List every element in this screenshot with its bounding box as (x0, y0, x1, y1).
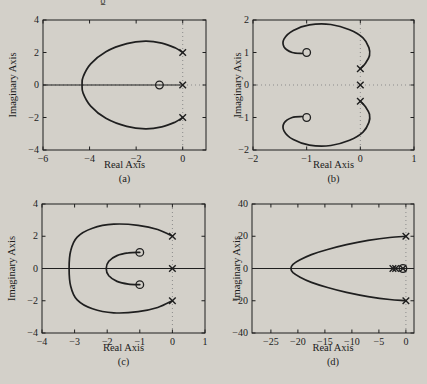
subplot-b-root-locus: −2−101−2−1012Real AxisImaginary Axis(b) (0, 0, 427, 384)
subplot-caption: (a) (119, 173, 131, 185)
x-tick-label: −1 (301, 153, 312, 164)
x-tick-label: −4 (37, 336, 48, 347)
x-tick-label: −10 (344, 336, 360, 347)
zero-marker (136, 281, 144, 289)
axes-box (252, 204, 414, 333)
x-axis-label: Real Axis (104, 159, 145, 170)
x-tick-label: −20 (290, 336, 306, 347)
zero-marker (399, 265, 407, 273)
y-tick-label: 1 (244, 47, 249, 58)
pole-marker (179, 49, 186, 56)
locus-branch (283, 24, 370, 69)
y-tick-label: −4 (28, 144, 39, 155)
x-tick-label: −4 (84, 153, 95, 164)
axes-box (43, 20, 206, 150)
x-tick-label: −15 (317, 336, 333, 347)
pole-marker (390, 265, 397, 272)
page-text-remnant-glyph: g (100, 0, 108, 5)
y-tick-label: 20 (238, 230, 248, 241)
y-axis-label: Imaginary Axis (7, 52, 18, 117)
y-tick-label: 0 (33, 263, 38, 274)
y-tick-label: 2 (33, 230, 38, 241)
pole-marker (179, 114, 186, 121)
y-tick-label: −20 (232, 295, 248, 306)
pole-marker (357, 82, 364, 89)
y-tick-label: −4 (27, 327, 38, 338)
x-tick-label: −2 (102, 336, 113, 347)
x-tick-label: 0 (170, 336, 175, 347)
y-axis-label: Imaginary Axis (232, 52, 243, 117)
zero-marker (156, 81, 164, 89)
locus-branch (106, 252, 140, 284)
x-tick-label: 0 (403, 336, 408, 347)
subplot-caption: (c) (118, 356, 130, 368)
y-tick-label: −2 (27, 295, 38, 306)
pole-marker (403, 233, 410, 240)
x-tick-label: −3 (69, 336, 80, 347)
x-axis-label: Real Axis (313, 159, 354, 170)
y-tick-label: −40 (232, 327, 248, 338)
subplot-c-root-locus: −4−3−2−101−4−2024Real AxisImaginary Axis… (0, 0, 427, 384)
x-axis-label: Real Axis (312, 342, 353, 353)
zero-marker (136, 249, 144, 257)
subplot-caption: (b) (327, 173, 340, 185)
locus-branch (291, 236, 406, 300)
y-tick-label: 0 (34, 79, 39, 90)
zero-marker (303, 49, 311, 57)
x-tick-label: −1 (134, 336, 145, 347)
scanned-figure-page: g −6−4−20−4−2024Real AxisImaginary Axis(… (0, 0, 427, 384)
locus-branch (69, 224, 172, 313)
y-axis-label: Imaginary Axis (231, 236, 242, 301)
y-tick-label: 4 (34, 14, 39, 25)
x-tick-label: −25 (263, 336, 279, 347)
pole-marker (392, 265, 399, 272)
page-text-remnant: g (100, 0, 134, 5)
pole-marker (357, 98, 364, 105)
subplot-a-root-locus: −6−4−20−4−2024Real AxisImaginary Axis(a) (0, 0, 427, 384)
y-tick-label: 0 (243, 263, 248, 274)
y-tick-label: 2 (34, 47, 39, 58)
y-tick-label: 4 (33, 198, 38, 209)
x-tick-label: 1 (203, 336, 208, 347)
y-tick-label: 0 (244, 79, 249, 90)
y-tick-label: 40 (238, 198, 248, 209)
x-tick-label: 0 (358, 153, 363, 164)
x-tick-label: −6 (38, 153, 49, 164)
pole-marker (169, 297, 176, 304)
subplot-d-root-locus: −25−20−15−10−50−40−2002040Real AxisImagi… (0, 0, 427, 384)
y-axis-label: Imaginary Axis (6, 236, 17, 301)
y-tick-label: −2 (28, 112, 39, 123)
pole-marker (179, 82, 186, 89)
x-tick-label: 1 (412, 153, 417, 164)
y-tick-label: 2 (244, 14, 249, 25)
pole-marker (403, 297, 410, 304)
y-tick-label: −1 (238, 112, 249, 123)
x-tick-label: 0 (180, 153, 185, 164)
pole-marker (169, 233, 176, 240)
x-axis-label: Real Axis (103, 342, 144, 353)
subplot-caption: (d) (327, 356, 340, 368)
x-tick-label: −2 (131, 153, 142, 164)
pole-marker (169, 265, 176, 272)
axes-box (253, 20, 414, 150)
axes-box (42, 204, 205, 333)
pole-marker (357, 65, 364, 72)
x-tick-label: −5 (374, 336, 385, 347)
y-tick-label: −2 (238, 144, 249, 155)
pole-marker (400, 265, 407, 272)
locus-branch (82, 41, 183, 129)
zero-marker (303, 114, 311, 122)
x-tick-label: −2 (248, 153, 259, 164)
locus-branch (283, 101, 370, 146)
